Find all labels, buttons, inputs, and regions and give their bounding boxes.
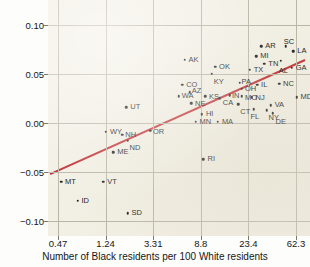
data-point-label: DE	[276, 118, 286, 126]
y-tick-mark	[44, 221, 48, 222]
data-point-label: OK	[219, 63, 230, 71]
data-point	[252, 108, 255, 111]
data-point	[149, 130, 152, 133]
gridline-horizontal	[48, 172, 310, 173]
gridline-vertical	[58, 0, 59, 236]
y-tick-mark	[44, 74, 48, 75]
gridline-vertical	[296, 0, 297, 236]
data-point-label: KY	[214, 78, 224, 86]
x-tick-mark	[248, 236, 249, 240]
data-point	[250, 96, 253, 99]
data-point	[217, 121, 220, 124]
data-point-label: NC	[283, 80, 294, 88]
data-point	[269, 104, 272, 107]
data-point-label: OR	[153, 128, 164, 136]
data-point-label: FL	[251, 113, 260, 121]
data-point-label: MD	[301, 93, 310, 101]
data-point-label: VA	[275, 101, 284, 109]
y-tick-mark	[44, 123, 48, 124]
data-point	[278, 82, 281, 85]
gridline-horizontal	[48, 74, 310, 75]
plot-panel: MSLASCALGAARMITNTXAKOKKYNCILPACOAZWAKSCA…	[48, 0, 310, 236]
data-point-label: NE	[195, 100, 205, 108]
y-tick-label: −0.10	[0, 216, 44, 227]
data-point	[255, 55, 258, 58]
x-tick-mark	[296, 236, 297, 240]
gridline-horizontal	[48, 123, 310, 124]
data-point-label: VT	[107, 178, 117, 186]
y-tick-label: 0.10	[0, 19, 44, 30]
data-point	[105, 131, 108, 134]
data-point-label: IL	[261, 81, 267, 89]
data-point	[271, 112, 274, 115]
data-point	[194, 121, 197, 124]
data-point	[279, 60, 282, 63]
data-point-label: CA	[223, 99, 233, 107]
data-point-label: MT	[65, 178, 76, 186]
data-point	[204, 95, 207, 98]
data-point	[241, 87, 244, 90]
data-point	[292, 50, 295, 53]
gridline-vertical	[106, 0, 107, 236]
y-tick-mark	[44, 25, 48, 26]
data-point-label: IN	[232, 92, 240, 100]
data-point-label: TX	[254, 66, 264, 74]
data-point-label: GA	[296, 64, 307, 72]
data-point	[121, 133, 124, 136]
data-point-label: ME	[117, 148, 128, 156]
data-point-label: TN	[268, 60, 278, 68]
data-point	[126, 139, 129, 142]
gridline-horizontal	[48, 25, 310, 26]
data-point-label: RI	[207, 155, 215, 163]
y-tick-label: 0.05	[0, 68, 44, 79]
data-point-label: WA	[182, 92, 194, 100]
data-point	[178, 95, 181, 98]
data-point-label: CT	[240, 108, 250, 116]
data-point-label: AL	[279, 67, 288, 75]
data-point-label: AR	[265, 42, 275, 50]
data-point	[102, 181, 105, 184]
data-point	[201, 113, 204, 116]
data-point	[126, 212, 129, 215]
y-tick-label: 0.00	[0, 117, 44, 128]
data-point	[229, 94, 232, 97]
data-point-label: MA	[222, 118, 233, 126]
gridline-horizontal	[48, 221, 310, 222]
data-point-label: MI	[260, 52, 268, 60]
data-point	[125, 106, 128, 109]
data-point	[241, 95, 244, 98]
y-tick-label: −0.05	[0, 167, 44, 178]
x-axis-label: Number of Black residents per 100 White …	[0, 251, 310, 262]
data-point-label: AK	[189, 56, 199, 64]
data-point	[76, 199, 79, 202]
data-point	[60, 181, 63, 184]
data-point	[295, 96, 298, 99]
data-point-label: SC	[284, 38, 294, 46]
data-point	[219, 97, 222, 100]
data-point	[181, 83, 184, 86]
data-point	[256, 83, 259, 86]
data-point-label: MN	[200, 118, 212, 126]
data-point-label: LA	[297, 47, 306, 55]
data-point	[290, 67, 293, 70]
data-point-label: SD	[132, 209, 142, 217]
data-point	[202, 158, 205, 161]
x-tick-mark	[201, 236, 202, 240]
data-point	[112, 151, 115, 154]
data-point	[260, 45, 263, 48]
data-point	[214, 66, 217, 69]
data-point	[210, 73, 213, 76]
x-tick-mark	[106, 236, 107, 240]
data-point-label: ND	[130, 144, 141, 152]
gridline-vertical	[153, 0, 154, 236]
data-point	[263, 63, 266, 66]
data-point	[238, 81, 241, 84]
data-point-label: ID	[82, 197, 90, 205]
data-point-label: NH	[125, 131, 136, 139]
data-point-label: KS	[209, 93, 219, 101]
data-point-label: UT	[130, 103, 140, 111]
data-point	[248, 69, 251, 72]
data-point	[183, 59, 186, 62]
data-point-label: OH	[245, 85, 256, 93]
y-tick-mark	[44, 172, 48, 173]
